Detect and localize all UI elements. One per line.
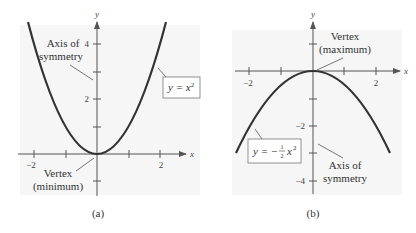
axis-of-symmetry-label-line1-b: Axis of [329,159,362,171]
panel-a: −2 2 2 4 x y Axis of symmetry Vertex (mi… [18,9,200,220]
svg-text:2: 2 [293,144,297,152]
x-tick-label-neg2-a: −2 [26,160,36,170]
y-axis-label-b: y [310,9,315,19]
y-tick-label-neg2-b: −2 [295,121,305,131]
svg-text:x: x [286,145,292,157]
figure: −2 2 2 4 x y Axis of symmetry Vertex (mi… [0,0,416,233]
axis-of-symmetry-label-line1-a: Axis of [47,37,80,49]
y-tick-label-neg4-b: −4 [295,176,305,186]
equation-label-b: y = − 1 2 x 2 [252,144,297,159]
svg-text:y = −: y = − [252,145,278,157]
panel-caption-a: (a) [92,207,105,220]
x-tick-label-2-b: 2 [374,78,379,88]
y-axis-label-a: y [94,9,99,19]
svg-text:2: 2 [281,153,284,159]
axis-of-symmetry-label-line2-a: symmetry [39,50,83,62]
panel-caption-b: (b) [307,207,320,220]
x-tick-label-neg2-b: −2 [243,78,253,88]
vertex-label-line2-a: (minimum) [33,180,83,193]
panel-b: −2 2 −2 −4 x y Vertex (maximum) Axis of … [232,9,408,220]
x-axis-label-a: x [189,149,194,159]
vertex-label-line1-a: Vertex [44,167,73,179]
x-tick-label-2-a: 2 [159,160,164,170]
x-axis-label-b: x [403,66,408,76]
vertex-label-line2-b: (maximum) [319,43,371,56]
y-tick-label-4-a: 4 [85,39,90,49]
y-tick-label-2-a: 2 [85,94,90,104]
equation-label-a: y = x2 [167,81,195,93]
vertex-label-line1-b: Vertex [331,30,360,42]
svg-text:1: 1 [281,144,284,150]
axis-of-symmetry-label-line2-b: symmetry [323,172,367,184]
